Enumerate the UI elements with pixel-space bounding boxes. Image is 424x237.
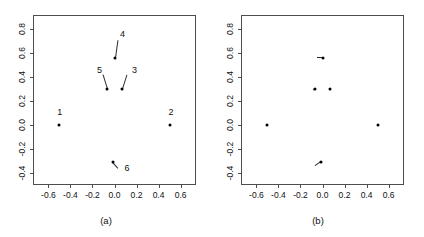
data-point <box>105 88 108 91</box>
y-tick-label: 0.4 <box>226 71 235 83</box>
y-tick-label: 0.8 <box>18 23 27 35</box>
data-point <box>320 161 323 164</box>
x-tick-label: 0.4 <box>361 191 373 200</box>
x-tick <box>367 185 368 188</box>
y-tick-label: 0.0 <box>226 119 235 131</box>
x-tick <box>278 185 279 188</box>
panel-a-caption: (a) <box>0 215 212 226</box>
y-tick-label: 0.8 <box>226 23 235 35</box>
plot-area-b <box>241 15 404 185</box>
data-point <box>58 124 61 127</box>
y-tick <box>238 29 241 30</box>
data-point <box>313 88 316 91</box>
point-label: 4 <box>120 30 125 39</box>
y-tick-label: 0.2 <box>226 95 235 107</box>
panel-b-caption: (b) <box>212 215 424 226</box>
x-tick <box>181 185 182 188</box>
data-point <box>113 57 116 60</box>
x-tick-label: -0.4 <box>271 191 286 200</box>
point-label: 3 <box>132 66 137 75</box>
x-tick-label: 0.6 <box>175 191 187 200</box>
data-point <box>329 88 332 91</box>
y-tick-label: -0.2 <box>18 142 27 157</box>
x-tick <box>300 185 301 188</box>
x-tick <box>48 185 49 188</box>
y-tick <box>30 149 33 150</box>
y-tick <box>30 125 33 126</box>
x-tick <box>323 185 324 188</box>
x-tick-label: -0.2 <box>85 191 100 200</box>
x-tick-label: 0.6 <box>383 191 395 200</box>
x-tick-label: 0.4 <box>153 191 165 200</box>
point-label: 1 <box>57 108 62 117</box>
data-point <box>321 57 324 60</box>
panel-a: -0.6-0.4-0.20.00.20.40.6-0.4-0.20.00.20.… <box>0 0 212 237</box>
y-tick <box>238 149 241 150</box>
data-point <box>266 124 269 127</box>
x-tick <box>159 185 160 188</box>
y-tick-label: 0.6 <box>18 47 27 59</box>
y-tick-label: -0.2 <box>226 142 235 157</box>
y-tick <box>30 101 33 102</box>
data-point <box>112 161 115 164</box>
x-tick <box>70 185 71 188</box>
x-tick-label: 0.2 <box>131 191 143 200</box>
point-label: 6 <box>124 164 129 173</box>
y-tick <box>30 77 33 78</box>
plot-area-a <box>33 15 196 185</box>
y-tick <box>238 53 241 54</box>
data-point <box>121 88 124 91</box>
y-tick <box>238 125 241 126</box>
x-tick <box>389 185 390 188</box>
figure-canvas: -0.6-0.4-0.20.00.20.40.6-0.4-0.20.00.20.… <box>0 0 424 237</box>
y-tick-label: -0.4 <box>18 166 27 181</box>
y-tick <box>30 53 33 54</box>
data-point <box>168 124 171 127</box>
x-tick-label: 0.0 <box>317 191 329 200</box>
y-tick <box>238 101 241 102</box>
x-tick-label: 0.0 <box>109 191 121 200</box>
y-tick <box>30 173 33 174</box>
x-tick <box>137 185 138 188</box>
x-tick <box>92 185 93 188</box>
x-tick <box>345 185 346 188</box>
data-point <box>376 124 379 127</box>
x-tick-label: -0.2 <box>293 191 308 200</box>
y-tick-label: 0.4 <box>18 71 27 83</box>
x-tick-label: -0.6 <box>249 191 264 200</box>
point-label: 2 <box>168 108 173 117</box>
y-tick <box>238 77 241 78</box>
x-tick <box>256 185 257 188</box>
y-tick <box>30 29 33 30</box>
point-label: 5 <box>97 66 102 75</box>
x-tick <box>115 185 116 188</box>
y-tick-label: -0.4 <box>226 166 235 181</box>
panel-b: -0.6-0.4-0.20.00.20.40.6-0.4-0.20.00.20.… <box>212 0 424 237</box>
x-tick-label: -0.6 <box>41 191 56 200</box>
y-tick-label: 0.2 <box>18 95 27 107</box>
y-tick-label: 0.0 <box>18 119 27 131</box>
x-tick-label: -0.4 <box>63 191 78 200</box>
y-tick-label: 0.6 <box>226 47 235 59</box>
y-tick <box>238 173 241 174</box>
x-tick-label: 0.2 <box>339 191 351 200</box>
